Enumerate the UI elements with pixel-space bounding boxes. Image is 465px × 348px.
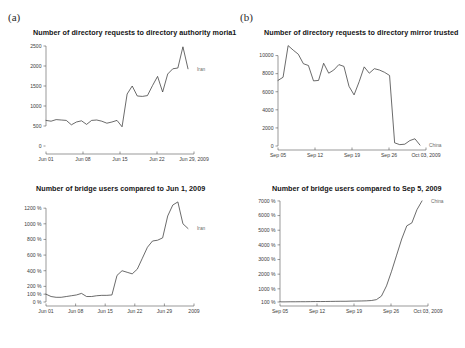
svg-text:Oct 03, 2009: Oct 03, 2009: [411, 152, 440, 158]
svg-text:8000: 8000: [262, 70, 273, 76]
chart-b-bottom: 100 %1000 %2000 %3000 %4000 %5000 %6000 …: [232, 190, 465, 330]
svg-text:4000 %: 4000 %: [258, 242, 276, 248]
svg-text:Sep 19: Sep 19: [344, 152, 360, 158]
svg-text:Iran: Iran: [197, 67, 206, 72]
svg-text:1000 %: 1000 %: [24, 221, 42, 227]
svg-text:200 %: 200 %: [27, 283, 42, 289]
svg-text:Sep 05: Sep 05: [270, 152, 286, 158]
svg-text:3000 %: 3000 %: [258, 256, 276, 262]
svg-text:Iran: Iran: [197, 226, 206, 231]
svg-text:100 %: 100 %: [261, 299, 276, 305]
svg-text:Sep 26: Sep 26: [383, 308, 399, 314]
svg-text:Jun 08: Jun 08: [68, 308, 83, 314]
chart-b-top: 0200040006000800010000Sep 05Sep 12Sep 19…: [232, 34, 465, 174]
svg-text:2000 %: 2000 %: [258, 271, 276, 277]
panel-label-a: (a): [8, 11, 20, 23]
svg-text:Jun 29, 2009: Jun 29, 2009: [179, 156, 209, 162]
svg-text:Sep 12: Sep 12: [307, 152, 323, 158]
svg-text:Sep 05: Sep 05: [272, 308, 288, 314]
svg-text:Oct 03, 2009: Oct 03, 2009: [413, 308, 442, 314]
svg-text:800 %: 800 %: [27, 236, 42, 242]
svg-text:Jun 22: Jun 22: [149, 156, 164, 162]
svg-text:1500: 1500: [30, 83, 41, 89]
svg-text:0: 0: [271, 143, 274, 149]
svg-text:China: China: [431, 199, 444, 204]
svg-text:4000: 4000: [262, 107, 273, 113]
svg-text:Jun 01: Jun 01: [38, 156, 53, 162]
svg-text:Jun 01: Jun 01: [38, 308, 53, 314]
svg-text:Jun 29: Jun 29: [157, 308, 172, 314]
svg-text:0 %: 0 %: [33, 299, 42, 305]
svg-text:Jun 15: Jun 15: [98, 308, 113, 314]
svg-text:6000: 6000: [262, 89, 273, 95]
svg-text:1200 %: 1200 %: [24, 205, 42, 211]
svg-text:Sep 19: Sep 19: [346, 308, 362, 314]
svg-text:1000: 1000: [30, 103, 41, 109]
svg-text:China: China: [429, 143, 442, 148]
svg-text:10000: 10000: [259, 52, 273, 58]
svg-text:500: 500: [33, 123, 42, 129]
svg-text:6000 %: 6000 %: [258, 212, 276, 218]
svg-text:2000: 2000: [30, 63, 41, 69]
svg-text:Sep 12: Sep 12: [309, 308, 325, 314]
svg-text:Jun 15: Jun 15: [112, 156, 127, 162]
svg-text:2009: 2009: [188, 308, 199, 314]
svg-text:600 %: 600 %: [27, 252, 42, 258]
chart-a-bottom: 0 %100 %200 %400 %600 %800 %1000 %1200 %…: [0, 190, 232, 330]
svg-text:Sep 26: Sep 26: [381, 152, 397, 158]
svg-text:400 %: 400 %: [27, 268, 42, 274]
svg-text:100 %: 100 %: [27, 291, 42, 297]
svg-text:0: 0: [39, 143, 42, 149]
panel-label-b: (b): [240, 11, 253, 23]
svg-text:1000 %: 1000 %: [258, 286, 276, 292]
figure-container: (a) (b) Number of directory requests to …: [0, 0, 465, 348]
svg-text:5000 %: 5000 %: [258, 227, 276, 233]
svg-text:2000: 2000: [262, 125, 273, 131]
chart-a-top: 05001000150020002500Jun 01Jun 08Jun 15Ju…: [0, 34, 232, 174]
svg-text:2500: 2500: [30, 43, 41, 49]
svg-text:Jun 08: Jun 08: [75, 156, 90, 162]
svg-text:Jun 22: Jun 22: [127, 308, 142, 314]
svg-text:7000 %: 7000 %: [258, 198, 276, 204]
